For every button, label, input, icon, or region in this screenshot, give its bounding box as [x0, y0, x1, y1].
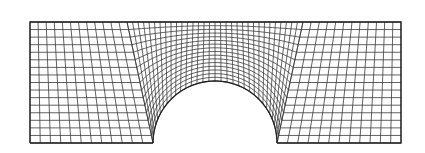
notch-arc — [153, 81, 277, 143]
notched-plate-mesh — [0, 0, 425, 153]
mesh-grid-lines — [30, 22, 401, 143]
center-block-ring-line — [153, 81, 277, 143]
center-block-ring-line — [151, 77, 278, 135]
